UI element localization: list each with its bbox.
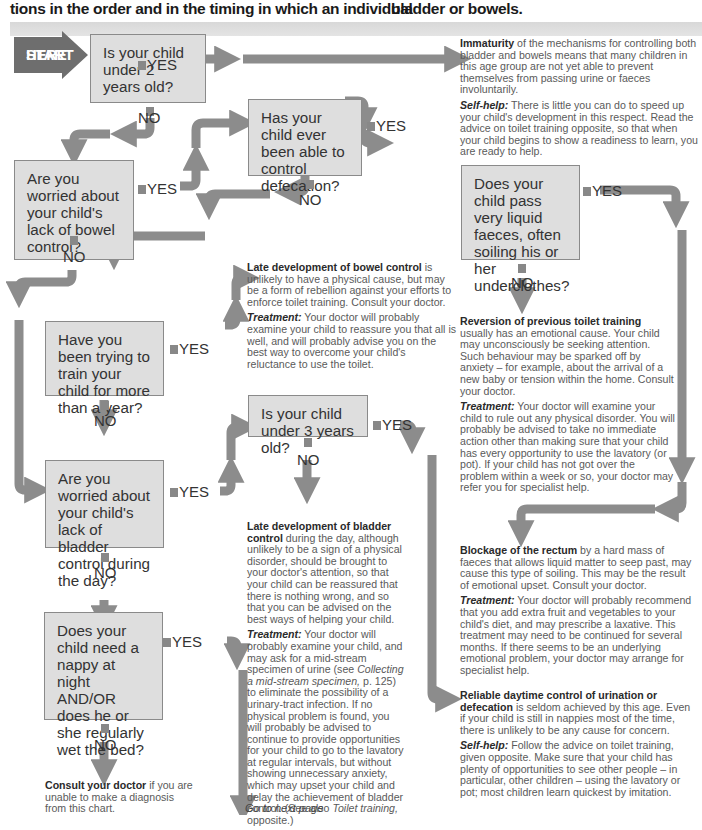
- q1-yes-label: YES: [138, 57, 177, 73]
- q7-no-marker: [101, 553, 109, 562]
- q6-no-label: NO: [297, 452, 320, 468]
- outcome-reliable-daytime: Reliable daytime control of urination or…: [460, 690, 692, 802]
- outcome-consult-doctor: Consult your doctor if you are unable to…: [45, 780, 195, 819]
- q7-yes-label: YES: [170, 484, 209, 500]
- q2-no-marker: [70, 236, 78, 245]
- q5-no-marker: [101, 401, 109, 410]
- q8-no-label: NO: [94, 737, 117, 753]
- outcome-late-bowel: Late development of bowel control is unl…: [247, 262, 457, 374]
- q3-yes-label: YES: [367, 118, 406, 134]
- question-training-year: Have you been trying to train your child…: [45, 321, 164, 396]
- link-toilet-training[interactable]: Toilet training,: [332, 802, 398, 814]
- question-nappy-night: Does your child need a nappy at night AN…: [44, 612, 163, 720]
- start-here-badge: STARTHERE: [14, 31, 88, 79]
- question-control-defecation: Has your child ever been able to control…: [248, 99, 362, 176]
- outcome-late-bladder: Late development of bladder control duri…: [247, 521, 407, 830]
- q1-no-label: NO: [138, 110, 161, 126]
- q2-yes-label: YES: [138, 181, 177, 197]
- q8-no-marker: [101, 724, 109, 733]
- question-liquid-faeces: Does your child pass very liquid faeces,…: [461, 165, 580, 260]
- q4-yes-label: YES: [583, 183, 622, 199]
- q7-no-label: NO: [94, 565, 117, 581]
- go-to-next-page-link[interactable]: Go to next page: [245, 802, 323, 814]
- q6-no-marker: [304, 438, 312, 447]
- q2-no-label: NO: [63, 249, 86, 265]
- q8-yes-label: YES: [163, 634, 202, 650]
- outcome-blockage: Blockage of the rectum by a hard mass of…: [460, 545, 692, 681]
- q3-no-marker: [306, 180, 314, 189]
- start-label-2: HERE: [26, 47, 66, 63]
- q3-no-label: NO: [299, 192, 322, 208]
- q5-yes-label: YES: [170, 341, 209, 357]
- q4-no-marker: [518, 264, 526, 273]
- outcome-reversion: Reversion of previous toilet training us…: [460, 316, 675, 498]
- question-under-3: Is your child under 3 years old?: [248, 395, 368, 437]
- question-bowel-worry: Are you worried about your child's lack …: [14, 160, 134, 260]
- question-bladder-day: Are you worried about your child's lack …: [45, 460, 164, 548]
- outcome-immaturity: Immaturity of the mechanisms for control…: [460, 38, 698, 162]
- q6-yes-label: YES: [373, 417, 412, 433]
- q4-no-label: NO: [511, 275, 534, 291]
- q5-no-label: NO: [94, 413, 117, 429]
